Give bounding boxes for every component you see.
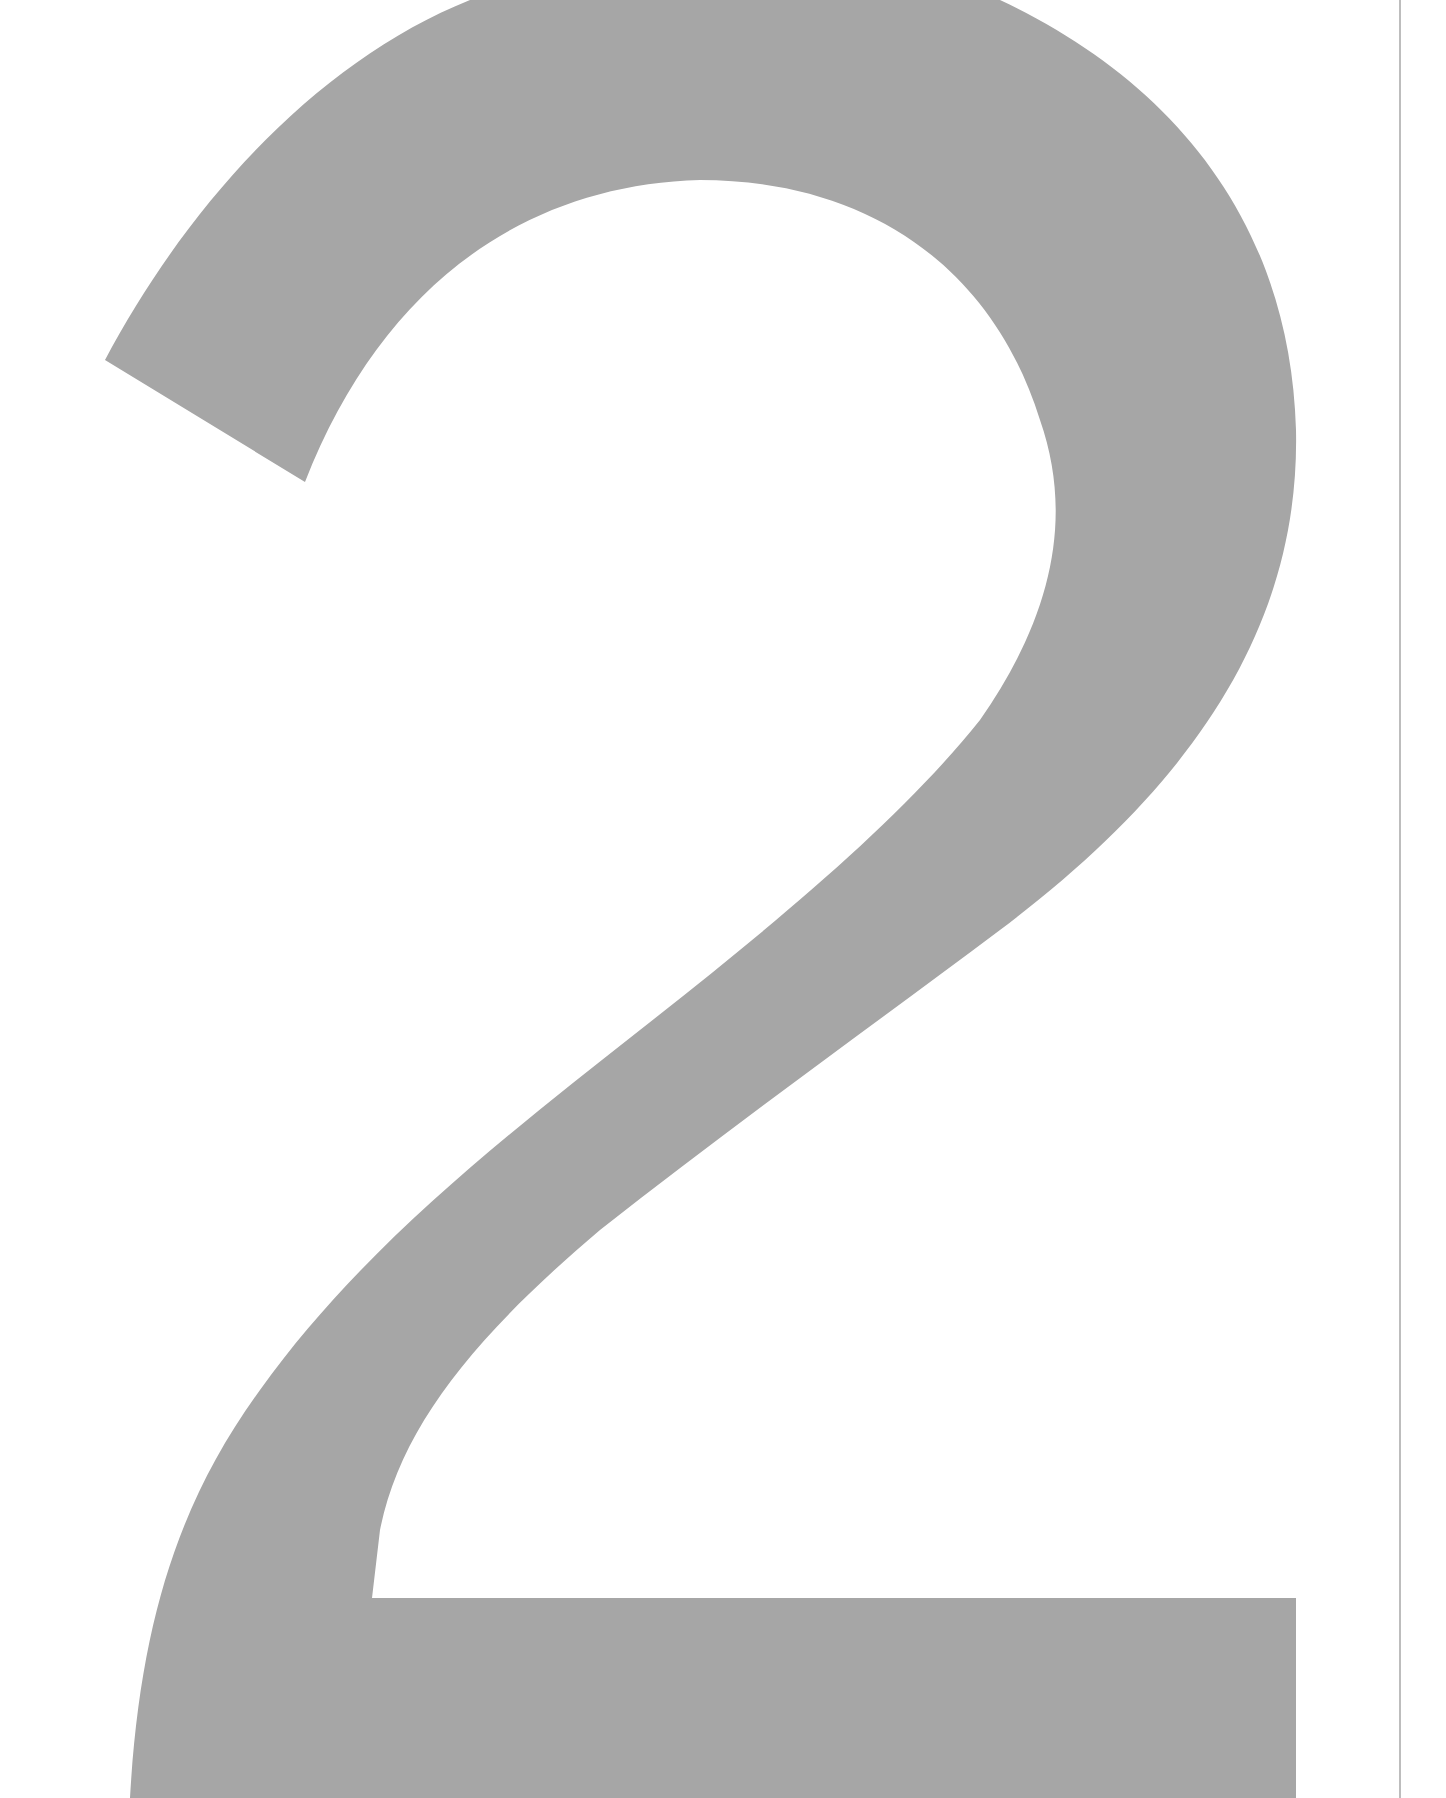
- large-numeral-two: [0, 0, 1446, 1798]
- document-page: 2: [0, 0, 1446, 1798]
- page-edge-rule: [1399, 0, 1401, 1798]
- numeral-two-shape: [105, 0, 1296, 1798]
